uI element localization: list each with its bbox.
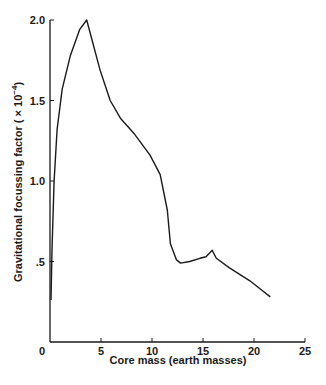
y-tick-label: .5 — [36, 256, 45, 268]
x-tick-label: 0 — [39, 345, 45, 357]
x-axis-label: Core mass (earth masses) — [110, 354, 247, 366]
y-tick-label: 1.5 — [30, 95, 45, 107]
chart-canvas: 0510152025 .51.01.52.0 Core mass (earth … — [0, 0, 326, 385]
y-axis-label: Gravitational focussing factor ( × 10−4) — [10, 82, 24, 282]
y-tick-label: 2.0 — [30, 14, 45, 26]
x-tick-label: 25 — [299, 345, 311, 357]
x-tick-label: 20 — [248, 345, 260, 357]
data-line — [51, 20, 270, 300]
x-tick-label: 5 — [98, 345, 104, 357]
y-tick-label: 1.0 — [30, 175, 45, 187]
